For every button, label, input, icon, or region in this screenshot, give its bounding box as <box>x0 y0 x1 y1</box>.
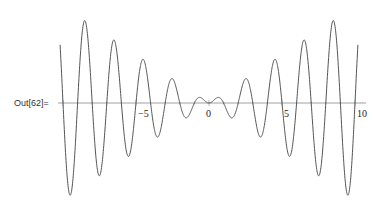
svg-text:0: 0 <box>206 108 211 119</box>
svg-text:10: 10 <box>357 108 367 119</box>
svg-text:5: 5 <box>284 108 289 119</box>
x-axis-tick-labels: −50510 <box>138 108 367 119</box>
svg-text:−5: −5 <box>138 108 149 119</box>
plot: −50510 <box>0 0 373 216</box>
